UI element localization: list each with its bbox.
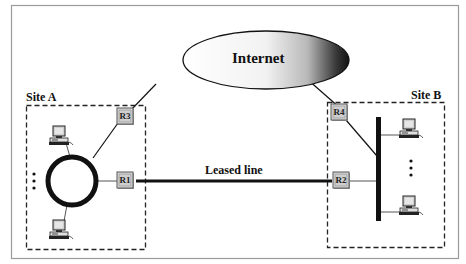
ring-network	[48, 157, 96, 205]
more-computers-site-b	[409, 159, 412, 176]
router-r3-label: R3	[118, 110, 132, 122]
leased-line-label: Leased line	[205, 163, 263, 178]
router-r4-label: R4	[332, 106, 346, 118]
site-b-label: Site B	[411, 88, 441, 103]
router-r2-label: R2	[334, 174, 348, 186]
more-computers-site-a	[32, 172, 35, 189]
bus-backbone	[376, 117, 381, 221]
router-r1-label: R1	[118, 174, 132, 186]
internet-label: Internet	[232, 50, 285, 67]
network-diagram	[0, 0, 466, 264]
site-a-label: Site A	[26, 90, 56, 105]
